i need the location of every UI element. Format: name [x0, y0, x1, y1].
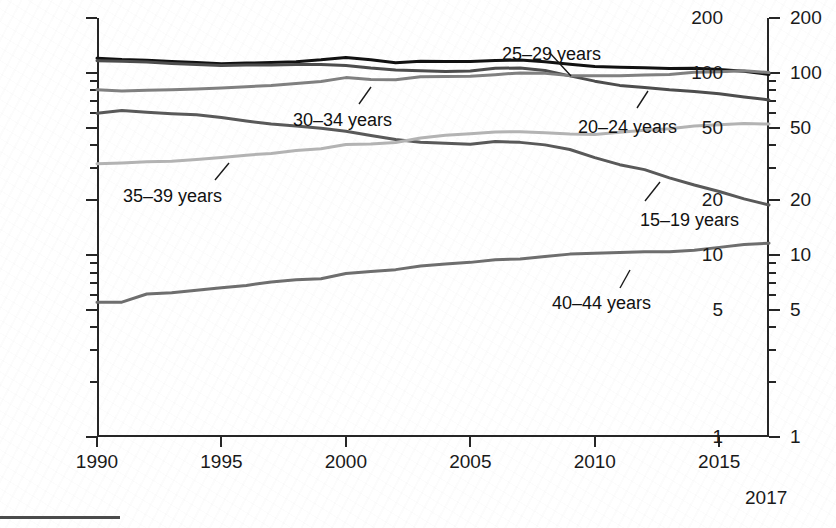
annotation-25-29: 25–29 years	[502, 44, 601, 65]
annotation-20-24: 20–24 years	[578, 117, 677, 138]
y-tick-right-1	[769, 436, 780, 438]
x-axis-end-label: 2017	[745, 487, 787, 509]
y-tick-right-6	[769, 294, 776, 296]
x-label-1990: 1990	[76, 451, 118, 473]
x-label-2015: 2015	[698, 451, 740, 473]
y-tick-right-5	[769, 309, 780, 311]
y-tick-right-60	[769, 112, 776, 114]
chart-figure: 25–29 years30–34 years20–24 years35–39 y…	[0, 0, 836, 528]
plot-area: 25–29 years30–34 years20–24 years35–39 y…	[97, 18, 769, 437]
y-tick-left-90	[90, 80, 97, 82]
y-label-right-100: 100	[790, 63, 822, 82]
x-tick-2000	[345, 437, 347, 447]
series-line-30-34 years	[97, 71, 769, 91]
y-tick-right-200	[769, 17, 780, 19]
y-label-left-200: 200	[691, 8, 723, 27]
y-tick-left-10	[86, 254, 97, 256]
y-tick-left-20	[86, 199, 97, 201]
y-label-right-20: 20	[790, 190, 811, 209]
y-tick-left-30	[90, 167, 97, 169]
y-label-right-10: 10	[790, 245, 811, 264]
x-label-1995: 1995	[200, 451, 242, 473]
y-tick-right-80	[769, 89, 776, 91]
x-tick-2010	[594, 437, 596, 447]
y-tick-left-40	[90, 144, 97, 146]
series-line-20-24 years	[97, 61, 769, 100]
y-tick-right-100	[769, 72, 780, 74]
y-label-right-1: 1	[790, 427, 801, 446]
y-tick-left-200	[86, 17, 97, 19]
y-label-left-20: 20	[702, 190, 723, 209]
y-tick-left-5	[86, 309, 97, 311]
y-tick-right-7	[769, 282, 776, 284]
y-tick-left-3	[90, 349, 97, 351]
y-tick-left-8	[90, 272, 97, 274]
x-label-2005: 2005	[449, 451, 491, 473]
x-tick-1995	[220, 437, 222, 447]
y-label-left-10: 10	[702, 245, 723, 264]
y-tick-right-4	[769, 326, 776, 328]
y-tick-right-9	[769, 262, 776, 264]
y-label-left-1: 1	[712, 427, 723, 446]
y-tick-left-50	[86, 127, 97, 129]
y-tick-right-10	[769, 254, 780, 256]
y-label-right-5: 5	[790, 300, 801, 319]
y-label-left-50: 50	[702, 118, 723, 137]
y-tick-left-2	[90, 381, 97, 383]
annotation-35-39: 35–39 years	[123, 186, 222, 207]
figure-bottom-rule	[0, 516, 120, 519]
y-label-left-100: 100	[691, 63, 723, 82]
y-label-right-200: 200	[790, 8, 822, 27]
y-tick-left-4	[90, 326, 97, 328]
y-tick-left-7	[90, 282, 97, 284]
x-label-2010: 2010	[574, 451, 616, 473]
y-tick-right-2	[769, 381, 776, 383]
y-tick-right-3	[769, 349, 776, 351]
y-tick-left-70	[90, 100, 97, 102]
y-tick-left-9	[90, 262, 97, 264]
y-label-right-50: 50	[790, 118, 811, 137]
series-line-40-44 years	[97, 243, 769, 302]
x-tick-1990	[96, 437, 98, 447]
x-label-2000: 2000	[325, 451, 367, 473]
y-label-left-5: 5	[712, 300, 723, 319]
y-tick-right-40	[769, 144, 776, 146]
annotation-40-44: 40–44 years	[552, 293, 651, 314]
annotation-15-19: 15–19 years	[640, 210, 739, 231]
y-tick-right-20	[769, 199, 780, 201]
y-tick-right-30	[769, 167, 776, 169]
x-tick-2005	[469, 437, 471, 447]
y-tick-right-8	[769, 272, 776, 274]
annotation-30-34: 30–34 years	[293, 110, 392, 131]
y-tick-left-100	[86, 72, 97, 74]
y-tick-left-6	[90, 294, 97, 296]
y-tick-right-90	[769, 80, 776, 82]
y-tick-right-50	[769, 127, 780, 129]
